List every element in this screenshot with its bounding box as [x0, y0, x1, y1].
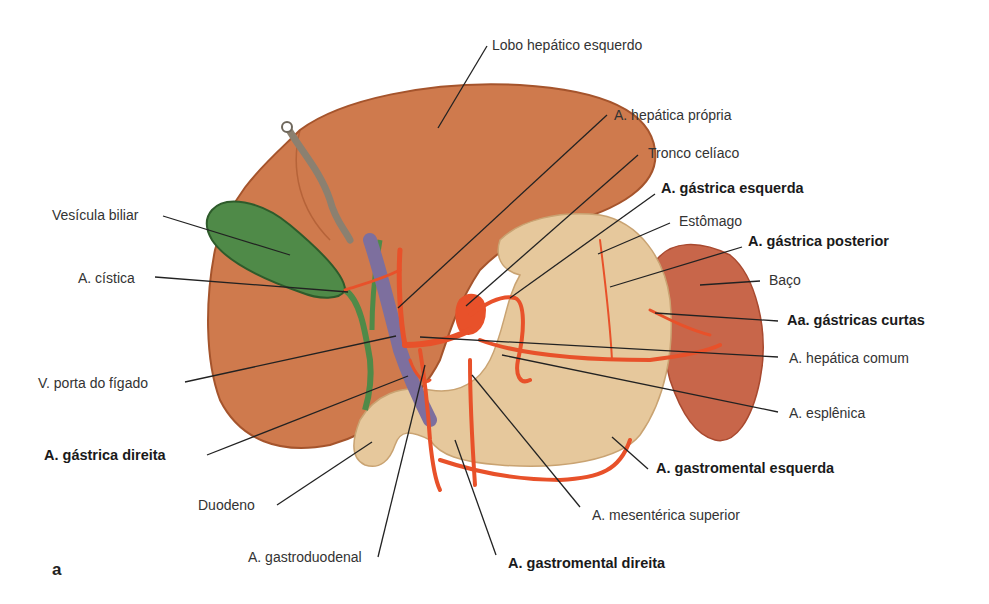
label-a-gastromental-direita: A. gastromental direita	[508, 555, 665, 571]
label-baco: Baço	[769, 272, 801, 288]
label-vesicula-biliar: Vesícula biliar	[52, 207, 138, 223]
label-a-hepatica-propria: A. hepática própria	[614, 107, 732, 123]
label-a-gastrica-posterior: A. gástrica posterior	[748, 233, 889, 249]
label-a-gastroduodenal: A. gastroduodenal	[248, 549, 362, 565]
label-a-gastrica-direita: A. gástrica direita	[44, 447, 166, 463]
anatomy-illustration	[0, 0, 989, 604]
label-a-gastrica-esquerda: A. gástrica esquerda	[661, 180, 804, 196]
label-tronco-celiaco: Tronco celíaco	[648, 145, 739, 161]
label-a-mesenterica-superior: A. mesentérica superior	[592, 507, 740, 523]
label-a-gastromental-esquerda: A. gastromental esquerda	[656, 460, 834, 476]
label-v-porta-do-figado: V. porta do fígado	[38, 375, 148, 391]
label-a-cistica: A. cística	[78, 270, 135, 286]
label-aa-gastricas-curtas: Aa. gástricas curtas	[787, 312, 925, 328]
label-estomago: Estômago	[679, 213, 742, 229]
label-a-esplenica: A. esplênica	[789, 405, 865, 421]
panel-letter: a	[52, 560, 61, 580]
label-duodeno: Duodeno	[198, 497, 255, 513]
label-lobo-hepatico-esquerdo: Lobo hepático esquerdo	[492, 37, 642, 53]
label-a-hepatica-comum: A. hepática comum	[789, 350, 909, 366]
